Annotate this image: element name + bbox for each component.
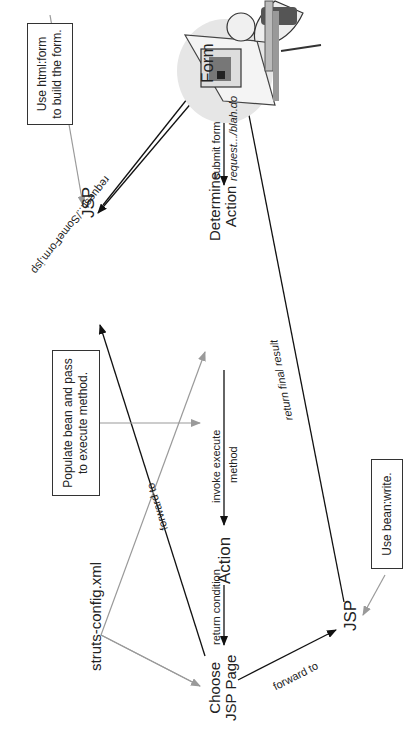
edge-beanwrite-to-jsp	[363, 575, 385, 615]
struts-config-link	[101, 496, 200, 686]
label-return-condition: return condition	[211, 569, 223, 645]
edge-return-final	[247, 105, 344, 602]
struts-config-label: struts-config.xml	[88, 562, 104, 671]
label-blah-do: request.../blah.do	[228, 96, 240, 181]
jsp-right-node: JSP	[342, 600, 360, 631]
note-html-form: Use html:formto build the form.	[27, 23, 73, 125]
note-populate-bean: Populate bean and passto execute method.	[52, 350, 100, 496]
choose-jsp-node: Choose JSP Page	[207, 655, 239, 721]
form-node: Form	[199, 43, 217, 83]
diagram-canvas: Form JSP Determine Action Action Choose …	[0, 0, 403, 741]
note-bean-write: Use bean:write.	[371, 459, 403, 569]
label-method: method	[228, 446, 240, 483]
label-submit-form: submit form	[211, 122, 223, 179]
label-invoke-execute: invoke execute	[211, 430, 223, 503]
determine-action-node: Determine Action	[207, 172, 239, 241]
